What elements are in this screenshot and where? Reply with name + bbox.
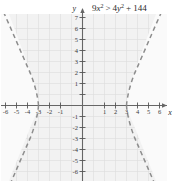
y-tick-label: 5 (75, 36, 78, 43)
title-plus: + (126, 3, 131, 13)
x-tick-label: -5 (14, 108, 19, 115)
y-tick-label: -2 (73, 124, 78, 131)
y-tick-label: -3 (73, 135, 78, 142)
y-tick-label: -1 (73, 113, 78, 120)
y-tick-label: -4 (73, 146, 79, 153)
x-tick-label: -6 (3, 108, 9, 115)
svg-text:9x2>4y2+144: 9x2>4y2+144 (92, 3, 147, 14)
x-tick-label: 3 (125, 108, 128, 115)
hyperbola-plot: -6 -5 -4 -3 -2 -1 1 2 3 4 5 6 7 6 5 4 3 … (0, 0, 175, 182)
y-axis-arrow (80, 8, 84, 13)
title-constant: 144 (133, 3, 147, 13)
y-tick-label: -6 (73, 168, 79, 175)
graph-figure: -6 -5 -4 -3 -2 -1 1 2 3 4 5 6 7 6 5 4 3 … (0, 0, 175, 182)
x-tick-label: -1 (58, 108, 63, 115)
x-tick-label: -2 (47, 108, 52, 115)
x-tick-label: -3 (36, 108, 41, 115)
title-exp-x: 2 (101, 3, 104, 9)
x-axis-label: x (167, 108, 172, 117)
y-tick-label: 1 (75, 80, 78, 87)
x-tick-label: 2 (114, 108, 117, 115)
y-axis-label: y (71, 4, 76, 13)
y-tick-label: -5 (73, 157, 78, 164)
x-tick-label: -4 (25, 108, 31, 115)
y-tick-label: 3 (75, 58, 78, 65)
x-tick-label: 1 (103, 108, 106, 115)
inequality-title: 9x2>4y2+144 (92, 3, 147, 14)
title-relation: > (106, 3, 111, 13)
title-exp-y: 2 (121, 3, 124, 9)
y-tick-label: 2 (75, 69, 78, 76)
x-tick-label: 5 (147, 108, 150, 115)
